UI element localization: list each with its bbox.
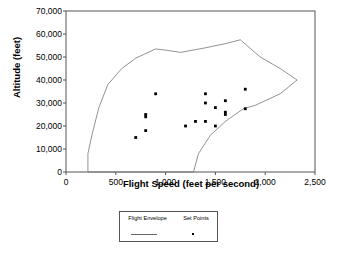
set-point-marker xyxy=(184,125,187,128)
set-point-marker xyxy=(204,120,207,123)
legend-key-envelope xyxy=(122,230,167,238)
set-point-marker xyxy=(244,107,247,110)
set-point-marker xyxy=(194,120,197,123)
set-point-marker xyxy=(204,92,207,95)
legend-key-setpoints xyxy=(170,230,215,238)
line-swatch-icon xyxy=(131,234,157,235)
legend-label-setpoints: Set Points xyxy=(183,215,209,221)
set-point-marker xyxy=(214,125,217,128)
set-point-marker xyxy=(144,129,147,132)
set-point-marker xyxy=(154,92,157,95)
set-point-marker xyxy=(224,99,227,102)
set-point-marker xyxy=(244,88,247,91)
set-point-marker xyxy=(214,106,217,109)
square-marker-icon xyxy=(192,233,195,236)
chart-legend: Flight Envelope Set Points xyxy=(119,211,218,242)
legend-label-envelope: Flight Envelope xyxy=(128,215,167,221)
set-point-marker xyxy=(204,102,207,105)
plot-frame xyxy=(66,11,315,172)
set-point-marker xyxy=(134,136,137,139)
flight-envelope-chart: Altitude (feet) Flight Speed (feet per s… xyxy=(0,0,338,255)
set-point-marker xyxy=(144,113,147,116)
set-point-marker xyxy=(224,111,227,114)
